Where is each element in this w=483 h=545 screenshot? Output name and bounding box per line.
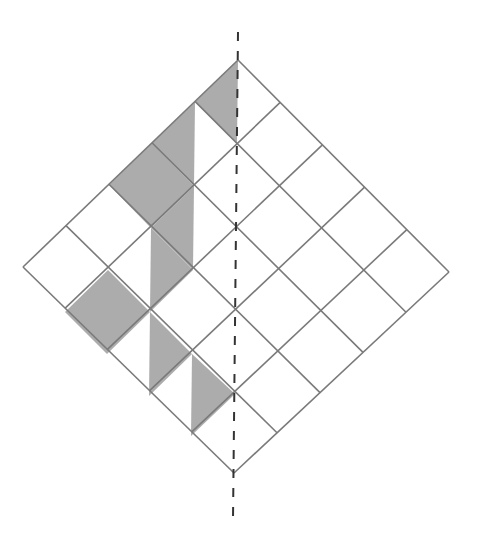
rotated-grid-diagram bbox=[0, 0, 483, 545]
background bbox=[0, 0, 483, 545]
